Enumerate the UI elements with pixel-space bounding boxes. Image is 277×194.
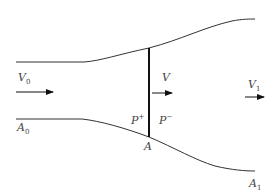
label-v0: V0 xyxy=(18,72,30,86)
label-p-plus: P+ xyxy=(131,114,144,126)
label-v1: V1 xyxy=(248,79,260,93)
upper-wall xyxy=(16,19,255,62)
label-a1: A1 xyxy=(249,178,261,192)
nozzle-diagram xyxy=(0,0,277,194)
label-a0: A0 xyxy=(17,122,29,136)
label-a: A xyxy=(144,141,152,152)
label-v: V xyxy=(162,72,170,83)
label-p-minus: P− xyxy=(159,114,172,126)
lower-wall xyxy=(16,119,255,171)
